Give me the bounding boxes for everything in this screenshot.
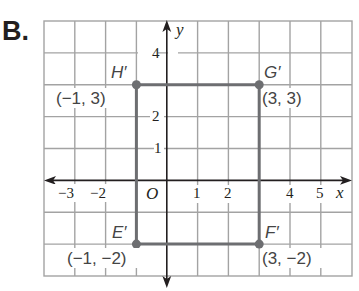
x-tick-label: 1 xyxy=(193,185,201,201)
grid xyxy=(44,21,352,276)
point-f-name: F′ xyxy=(265,223,279,242)
y-axis-label: y xyxy=(174,20,184,39)
point-e-name: E′ xyxy=(112,223,127,242)
point-h-coord: (−1, 3) xyxy=(56,89,106,108)
x-axis-label: x xyxy=(335,183,344,202)
point-g-marker xyxy=(255,80,264,89)
x-tick-label: −3 xyxy=(58,185,74,201)
point-f-coord: (3, −2) xyxy=(262,249,312,268)
point-f-marker xyxy=(255,240,264,249)
point-h-marker xyxy=(132,80,141,89)
point-g-coord: (3, 3) xyxy=(262,89,302,108)
x-tick-label: 4 xyxy=(286,185,294,201)
x-tick-label: 2 xyxy=(224,185,232,201)
point-g-name: G′ xyxy=(264,63,281,82)
x-tick-label: 5 xyxy=(316,185,324,201)
point-e-coord: (−1, −2) xyxy=(67,249,127,268)
coordinate-plane: −3 −2 1 2 4 5 x O 4 2 1 y H′ (−1, 3) G′ … xyxy=(0,0,359,291)
y-tick-label: 4 xyxy=(152,45,160,61)
origin-label: O xyxy=(146,184,158,203)
point-e-marker xyxy=(132,240,141,249)
x-tick-label: −2 xyxy=(90,185,106,201)
y-tick-label: 1 xyxy=(154,140,162,156)
point-h-name: H′ xyxy=(111,63,127,82)
y-tick-label: 2 xyxy=(152,108,160,124)
